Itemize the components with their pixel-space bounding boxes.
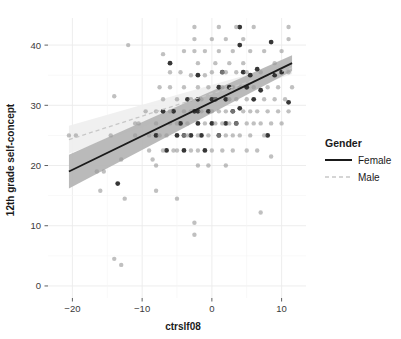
data-point <box>217 133 221 137</box>
data-point <box>213 61 217 65</box>
data-point <box>161 97 165 101</box>
data-point <box>182 85 186 89</box>
data-point <box>286 25 290 29</box>
data-point <box>231 148 235 152</box>
data-point <box>206 133 210 137</box>
data-point <box>196 148 200 152</box>
data-point <box>220 148 224 152</box>
data-point <box>245 121 249 125</box>
y-axis-title: 12th grade self-concept <box>5 103 16 216</box>
data-point <box>286 70 290 74</box>
data-point <box>262 133 266 137</box>
data-point <box>112 257 116 261</box>
data-point <box>210 70 214 74</box>
data-point <box>269 40 274 45</box>
data-point <box>203 49 207 53</box>
data-point <box>241 109 245 113</box>
data-point <box>192 233 196 237</box>
data-point <box>157 85 161 89</box>
data-point <box>161 148 165 152</box>
data-point <box>252 85 256 89</box>
data-point <box>175 148 179 152</box>
data-point <box>147 148 151 152</box>
data-point <box>168 61 173 66</box>
data-point <box>234 25 238 29</box>
data-point <box>286 100 291 105</box>
data-point <box>217 25 221 29</box>
x-axis-title: ctrslf08 <box>165 321 201 332</box>
data-point <box>286 37 290 41</box>
data-point <box>196 133 200 137</box>
data-point <box>185 121 189 125</box>
scatter-plot-figure: −20−10010 010203040 ctrslf08 12th grade … <box>0 0 401 339</box>
data-point <box>95 169 99 173</box>
data-point <box>258 210 262 214</box>
data-point <box>182 133 186 137</box>
data-point <box>269 121 273 125</box>
data-point <box>255 148 259 152</box>
data-point <box>178 70 182 74</box>
x-tick-label: 0 <box>209 303 214 314</box>
data-point <box>241 61 245 65</box>
legend-label-female[interactable]: Female <box>358 155 392 166</box>
data-point <box>258 70 262 74</box>
data-point <box>231 109 235 113</box>
data-point <box>203 73 207 77</box>
data-point <box>237 43 242 48</box>
data-point <box>168 85 172 89</box>
data-point <box>175 97 179 101</box>
data-point <box>206 163 210 167</box>
y-tick-label: 30 <box>30 100 41 111</box>
data-point <box>206 85 210 89</box>
y-tick-label: 20 <box>30 160 41 171</box>
data-point <box>227 61 231 65</box>
data-point <box>192 221 196 225</box>
data-point <box>224 133 228 137</box>
data-point <box>119 263 123 267</box>
data-point <box>119 157 123 161</box>
data-point <box>290 85 294 89</box>
data-point <box>182 148 187 153</box>
data-point <box>210 37 214 41</box>
data-point <box>224 37 228 41</box>
data-point <box>234 70 238 74</box>
data-point <box>213 121 217 125</box>
data-point <box>217 109 221 113</box>
data-point <box>276 85 280 89</box>
data-point <box>245 70 249 74</box>
data-point <box>237 106 242 111</box>
data-point <box>262 97 266 101</box>
x-tick-label: −20 <box>64 303 80 314</box>
data-point <box>258 121 262 125</box>
data-point <box>262 49 266 53</box>
data-point <box>192 25 196 29</box>
data-point <box>199 97 203 101</box>
data-point <box>227 97 231 101</box>
x-tick-label: 10 <box>276 303 287 314</box>
data-point <box>231 133 235 137</box>
data-point <box>168 70 172 74</box>
data-point <box>231 49 235 53</box>
data-point <box>283 97 287 101</box>
legend-label-male[interactable]: Male <box>358 172 380 183</box>
data-point <box>133 133 137 137</box>
data-point <box>220 121 224 125</box>
y-tick-label: 40 <box>30 40 41 51</box>
data-point <box>123 196 127 200</box>
data-point <box>245 97 249 101</box>
data-point <box>265 85 269 89</box>
data-point <box>182 109 186 113</box>
data-point <box>175 133 180 138</box>
data-point <box>224 163 228 167</box>
data-point <box>227 121 231 125</box>
data-point <box>245 148 249 152</box>
data-point <box>248 49 252 53</box>
data-point <box>279 49 283 53</box>
data-point <box>168 109 172 113</box>
data-point <box>258 88 263 93</box>
data-point <box>238 133 242 137</box>
data-point <box>234 97 238 101</box>
data-point <box>154 121 158 125</box>
data-point <box>67 133 71 137</box>
data-point <box>154 189 158 193</box>
